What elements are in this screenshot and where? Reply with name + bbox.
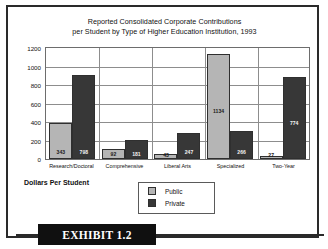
bar-group-two-year: 27 774	[256, 48, 309, 159]
x-label-two-year: Two-Year	[257, 161, 310, 173]
y-tick-1000: 1000	[27, 63, 41, 70]
bar-value-label: 266	[231, 149, 252, 155]
y-tick-800: 800	[31, 82, 41, 89]
legend-swatch-private-icon	[148, 199, 156, 207]
bar-group-comprehensive: 92 181	[99, 48, 152, 159]
bar-value-label: 27	[261, 152, 282, 158]
bar-public-two-year[interactable]: 27	[260, 156, 283, 159]
exhibit-rule-left	[16, 234, 40, 236]
y-tick-400: 400	[31, 119, 41, 126]
chart-plot-area: 1200 1000 800 600 400 200 0	[17, 47, 313, 177]
y-tick-1200: 1200	[27, 45, 41, 52]
exhibit-frame: Reported Consolidated Corporate Contribu…	[6, 5, 319, 238]
bar-private-specialized[interactable]: 266	[230, 131, 253, 159]
bar-groups: 343 798 92 181	[46, 48, 309, 159]
bar-private-research-doctoral[interactable]: 798	[72, 75, 95, 159]
bar-value-label: 43	[155, 152, 176, 158]
bar-public-specialized[interactable]: 1134	[207, 54, 230, 159]
bar-value-label: 247	[178, 149, 199, 155]
chart-legend: Public Private	[138, 182, 215, 214]
y-tick-600: 600	[31, 100, 41, 107]
bar-value-label: 774	[284, 120, 305, 126]
exhibit-page: Reported Consolidated Corporate Contribu…	[0, 0, 328, 249]
chart-title: Reported Consolidated Corporate Contribu…	[8, 17, 321, 37]
x-label-comprehensive: Comprehensive	[98, 161, 151, 173]
x-label-research-doctoral: Research/Doctoral	[45, 161, 98, 173]
bar-group-research-doctoral: 343 798	[46, 48, 99, 159]
bar-value-label: 1134	[208, 108, 229, 114]
bar-group-liberal-arts: 43 247	[151, 48, 204, 159]
x-label-liberal-arts: Liberal Arts	[151, 161, 204, 173]
bar-value-label: 181	[126, 151, 147, 157]
exhibit-banner: EXHIBIT 1.2	[38, 224, 156, 245]
bar-group-specialized: 1134 266	[204, 48, 257, 159]
chart-title-line-2: per Student by Type of Higher Education …	[8, 27, 321, 37]
chart-title-line-1: Reported Consolidated Corporate Contribu…	[8, 17, 321, 27]
bar-value-label: 92	[103, 151, 124, 157]
x-axis-category-labels: Research/Doctoral Comprehensive Liberal …	[45, 161, 310, 173]
exhibit-label: EXHIBIT 1.2	[62, 229, 132, 241]
bar-public-research-doctoral[interactable]: 343	[49, 123, 72, 159]
legend-item-private[interactable]: Private	[148, 199, 214, 207]
bar-private-comprehensive[interactable]: 181	[125, 140, 148, 159]
bar-private-two-year[interactable]: 774	[283, 77, 306, 159]
bar-public-liberal-arts[interactable]: 43	[154, 154, 177, 159]
legend-label-private: Private	[165, 200, 185, 207]
exhibit-rule-right	[154, 234, 324, 236]
y-axis-tick-labels: 1200 1000 800 600 400 200 0	[17, 47, 43, 160]
y-tick-200: 200	[31, 138, 41, 145]
y-tick-0: 0	[38, 156, 41, 163]
legend-swatch-public-icon	[148, 187, 156, 195]
y-axis-caption: Dollars Per Student	[24, 179, 89, 186]
bar-private-liberal-arts[interactable]: 247	[177, 133, 200, 159]
bar-value-label: 343	[50, 149, 71, 155]
x-label-specialized: Specialized	[204, 161, 257, 173]
legend-label-public: Public	[165, 188, 182, 195]
plot-canvas: 343 798 92 181	[45, 47, 310, 160]
bar-value-label: 798	[73, 149, 94, 155]
legend-item-public[interactable]: Public	[148, 187, 214, 195]
bar-public-comprehensive[interactable]: 92	[102, 149, 125, 159]
